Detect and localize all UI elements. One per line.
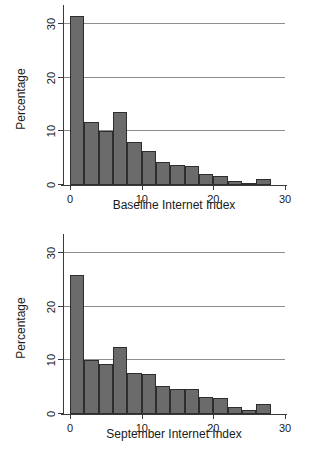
- y-tick-20: [58, 306, 63, 307]
- x-axis-line-top: [61, 185, 287, 186]
- bars-bottom: [63, 242, 285, 414]
- histogram-bar: [228, 407, 242, 414]
- histogram-bar: [113, 112, 127, 185]
- y-tick-label-10: 10: [45, 125, 57, 137]
- histogram-bar: [185, 166, 199, 185]
- histogram-bar: [142, 151, 156, 185]
- y-tick-label-30: 30: [45, 18, 57, 30]
- histogram-bar: [127, 373, 141, 414]
- plot-area-top: 01020300102030: [63, 13, 285, 185]
- histogram-bar: [156, 162, 170, 185]
- x-tick-0: [70, 414, 71, 419]
- plot-area-bottom: 01020300102030: [63, 242, 285, 414]
- y-tick-label-30: 30: [45, 247, 57, 259]
- histogram-bar: [84, 360, 98, 414]
- histogram-bar: [156, 386, 170, 414]
- x-tick-30: [285, 414, 286, 419]
- histogram-bar: [142, 374, 156, 414]
- x-tick-30: [285, 185, 286, 190]
- y-axis-label-top: Percentage: [14, 13, 28, 185]
- histogram-bar: [70, 275, 84, 414]
- chart-panel-baseline: Percentage 01020300102030 Baseline Inter…: [0, 0, 312, 228]
- histogram-bar: [256, 404, 270, 414]
- y-tick-label-10: 10: [45, 354, 57, 366]
- y-tick-30: [58, 23, 63, 24]
- x-tick-0: [70, 185, 71, 190]
- y-tick-label-0: 0: [45, 411, 57, 417]
- y-tick-0: [58, 413, 63, 414]
- y-tick-10: [58, 130, 63, 131]
- y-tick-label-20: 20: [45, 300, 57, 312]
- histogram-bar: [199, 397, 213, 414]
- histogram-bar: [127, 142, 141, 185]
- y-axis-label-bottom: Percentage: [14, 242, 28, 414]
- histogram-bar: [113, 347, 127, 414]
- x-axis-line-bottom: [61, 414, 287, 415]
- y-tick-10: [58, 359, 63, 360]
- y-tick-20: [58, 77, 63, 78]
- x-tick-20: [213, 185, 214, 190]
- histogram-bar: [170, 165, 184, 185]
- histogram-bar: [213, 176, 227, 185]
- x-axis-label-bottom: September Internet Index: [63, 427, 285, 441]
- x-axis-label-top: Baseline Internet Index: [63, 198, 285, 212]
- histogram-bar: [199, 174, 213, 185]
- y-tick-label-0: 0: [45, 182, 57, 188]
- histogram-bar: [99, 364, 113, 414]
- histogram-bar: [170, 389, 184, 414]
- y-tick-0: [58, 184, 63, 185]
- histogram-bar: [70, 16, 84, 185]
- histogram-bar: [213, 398, 227, 414]
- x-tick-20: [213, 414, 214, 419]
- histogram-bar: [99, 131, 113, 185]
- bars-top: [63, 13, 285, 185]
- histogram-figure: Percentage 01020300102030 Baseline Inter…: [0, 0, 312, 457]
- x-tick-10: [142, 414, 143, 419]
- chart-panel-september: Percentage 01020300102030 September Inte…: [0, 229, 312, 457]
- y-axis-line-top: [63, 5, 64, 185]
- y-tick-30: [58, 252, 63, 253]
- y-tick-label-20: 20: [45, 71, 57, 83]
- histogram-bar: [84, 122, 98, 185]
- x-tick-10: [142, 185, 143, 190]
- histogram-bar: [185, 389, 199, 414]
- y-axis-line-bottom: [63, 234, 64, 414]
